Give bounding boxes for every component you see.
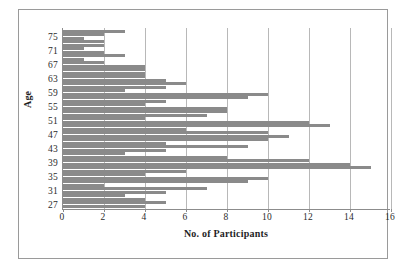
bar [63,145,248,148]
bar [63,187,207,190]
x-tick-label: 2 [101,212,106,222]
y-tick-label: 39 [48,159,58,168]
x-tick-label: 8 [224,212,229,222]
bar [63,47,84,50]
bar [63,79,166,82]
bar [63,201,166,204]
bar [63,142,166,145]
bar [63,68,145,71]
bar [63,163,350,166]
bar [63,40,104,43]
bar [63,128,186,131]
x-tick-label: 12 [303,212,313,222]
bar [63,135,289,138]
bar [63,86,166,89]
bar [63,180,248,183]
y-tick-label: 67 [48,61,58,70]
bar [63,184,104,187]
bar [63,149,166,152]
x-tick-label: 0 [60,212,65,222]
bar [63,82,186,85]
bar [63,93,268,96]
bar [63,72,145,75]
y-tick-label: 35 [48,173,58,182]
bar [63,156,227,159]
bar [63,110,227,113]
bar [63,198,145,201]
y-tick-label: 43 [48,145,58,154]
bar [63,205,145,208]
y-tick-label: 31 [48,187,58,196]
x-tick-label: 4 [142,212,147,222]
bar [63,89,125,92]
bar [63,170,186,173]
x-tick-label: 16 [385,212,395,222]
bar [63,61,104,64]
x-tick-label: 10 [262,212,272,222]
bar [63,117,145,120]
bar [63,152,125,155]
y-tick-label: 47 [48,131,58,140]
gridline [268,28,269,209]
bar [63,194,125,197]
bar [63,177,268,180]
gridline [391,28,392,209]
bar [63,44,104,47]
bar [63,131,268,134]
plot-area [62,28,390,210]
bar [63,75,145,78]
x-axis-title: No. of Participants [62,228,390,239]
y-tick-label: 75 [48,33,58,42]
gridline [350,28,351,209]
y-axis-tick-labels: 27313539434751555963677175 [0,28,58,210]
bar [63,37,84,40]
x-axis-tick-labels: 0246810121416 [62,212,392,226]
bar [63,173,145,176]
bar [63,30,125,33]
bar [63,54,125,57]
bar [63,114,207,117]
chart-figure: Age 27313539434751555963677175 024681012… [0,0,406,269]
x-tick-label: 6 [183,212,188,222]
bar [63,58,84,61]
x-tick-label: 14 [344,212,354,222]
bar [63,107,227,110]
bar [63,96,248,99]
bar [63,124,330,127]
bar [63,191,166,194]
bar [63,138,268,141]
y-tick-label: 55 [48,103,58,112]
y-tick-label: 63 [48,75,58,84]
bar [63,121,309,124]
bar [63,65,145,68]
y-tick-label: 27 [48,201,58,210]
y-tick-label: 59 [48,89,58,98]
bar [63,100,166,103]
bar [63,33,104,36]
bar [63,103,145,106]
bar [63,51,104,54]
bar [63,159,309,162]
bar [63,166,371,169]
y-tick-label: 71 [48,47,58,56]
gridline [309,28,310,209]
y-tick-label: 51 [48,117,58,126]
